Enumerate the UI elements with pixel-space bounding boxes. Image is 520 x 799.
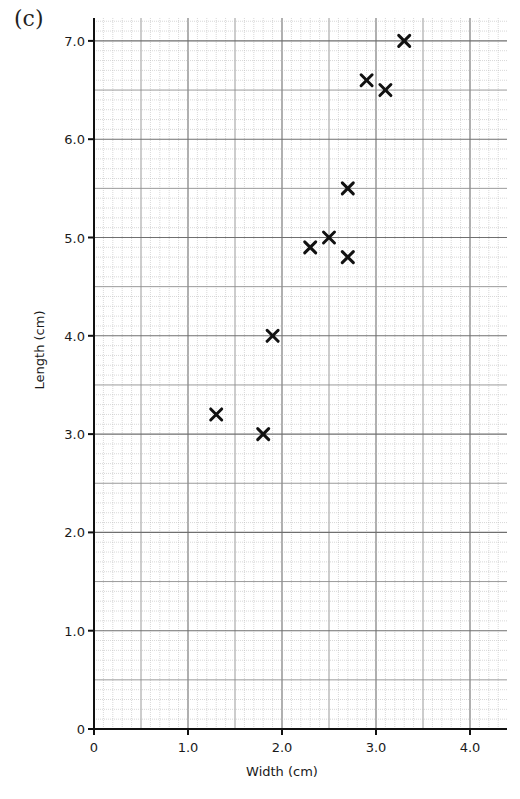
x-axis-label: Width (cm)	[246, 764, 318, 779]
y-tick-label: 7.0	[64, 34, 85, 49]
y-axis-ticks: 01.02.03.04.05.06.07.0	[64, 34, 94, 737]
y-tick-label: 4.0	[64, 329, 85, 344]
y-tick-label: 6.0	[64, 132, 85, 147]
x-tick-label: 3.0	[366, 740, 387, 755]
graph-paper-grid	[94, 18, 507, 729]
scatter-chart: 01.02.03.04.05.06.07.0 01.02.03.04.0 Wid…	[0, 0, 520, 799]
axes	[93, 18, 507, 730]
x-tick-label: 2.0	[272, 740, 293, 755]
x-tick-label: 4.0	[460, 740, 481, 755]
y-tick-label: 3.0	[64, 427, 85, 442]
x-tick-label: 1.0	[178, 740, 199, 755]
y-axis-label: Length (cm)	[32, 311, 47, 390]
y-tick-label: 0	[77, 722, 85, 737]
y-tick-label: 1.0	[64, 624, 85, 639]
x-axis-ticks: 01.02.03.04.0	[90, 729, 480, 755]
y-tick-label: 5.0	[64, 231, 85, 246]
y-tick-label: 2.0	[64, 525, 85, 540]
x-tick-label: 0	[90, 740, 98, 755]
x-marker-icon	[342, 252, 353, 263]
